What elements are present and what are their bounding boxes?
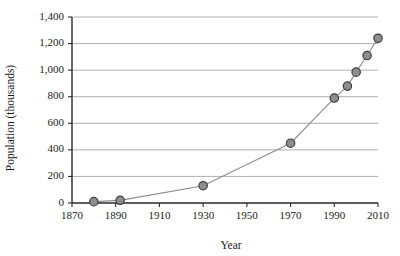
x-tick-label: 1990 [323, 209, 346, 221]
series-line [94, 38, 378, 201]
y-tick-label: 200 [48, 169, 65, 181]
x-tick-label: 1870 [61, 209, 84, 221]
x-axis-title: Year [220, 239, 241, 251]
series-markers [90, 34, 383, 206]
y-tick-label: 800 [48, 89, 65, 101]
data-point-1930 [199, 182, 207, 190]
x-tick-label: 2010 [367, 209, 390, 221]
y-tick-label: 1,000 [39, 63, 64, 75]
x-tick-label: 1890 [105, 209, 128, 221]
y-tick-label: 1,400 [39, 10, 64, 22]
data-point-2010 [374, 34, 382, 42]
population-line-chart: 02004006008001,0001,2001,400 18701890191… [0, 0, 400, 256]
y-tick-label: 1,200 [39, 36, 64, 48]
data-point-1990 [330, 94, 338, 102]
data-point-1996 [343, 82, 351, 90]
y-tick-labels: 02004006008001,0001,2001,400 [39, 10, 64, 208]
data-point-2000 [352, 68, 360, 76]
x-tick-label: 1930 [192, 209, 215, 221]
x-tick-label: 1970 [280, 209, 303, 221]
y-tick-label: 0 [59, 196, 65, 208]
y-axis [68, 17, 72, 203]
x-tick-labels: 18701890191019301950197019902010 [61, 209, 390, 221]
y-tick-label: 400 [48, 142, 65, 154]
data-point-1970 [286, 139, 294, 147]
x-tick-label: 1910 [148, 209, 171, 221]
y-tick-label: 600 [48, 116, 65, 128]
data-point-2005 [363, 51, 371, 59]
y-axis-title: Population (thousands) [4, 65, 17, 172]
data-point-1880 [90, 197, 98, 205]
chart-svg: 02004006008001,0001,2001,400 18701890191… [0, 0, 400, 256]
data-point-1892 [116, 196, 124, 204]
x-tick-label: 1950 [236, 209, 259, 221]
